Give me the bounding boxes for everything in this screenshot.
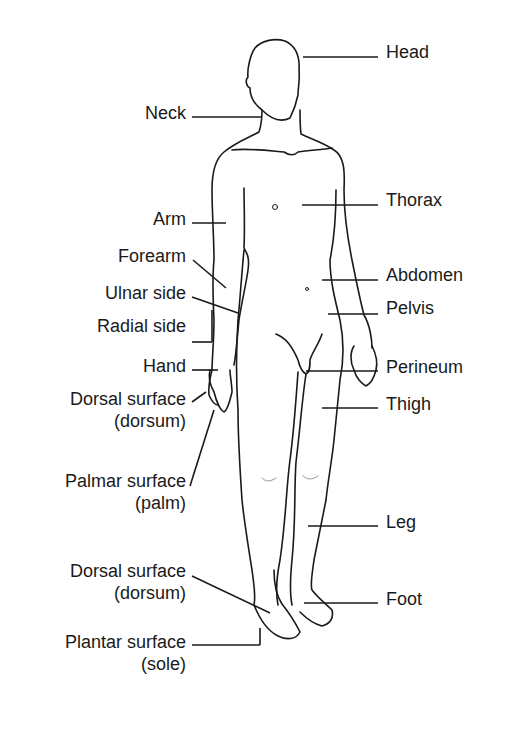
label-ulnar-side: Ulnar side [105, 282, 186, 304]
leader-forearm [193, 260, 226, 288]
label-subtext: (sole) [65, 653, 186, 675]
label-text: Perineum [386, 357, 463, 377]
leader-dorsal-hand [192, 392, 206, 402]
label-text: Hand [143, 356, 186, 376]
label-text: Dorsal surface [70, 389, 186, 409]
label-text: Forearm [118, 246, 186, 266]
label-text: Arm [153, 209, 186, 229]
label-text: Head [386, 42, 429, 62]
label-dorsal-surface-foot: Dorsal surface(dorsum) [70, 560, 186, 604]
label-arm: Arm [153, 208, 186, 230]
label-plantar-surface: Plantar surface(sole) [65, 631, 186, 675]
label-text: Plantar surface [65, 632, 186, 652]
label-palmar-surface: Palmar surface(palm) [65, 470, 186, 514]
label-subtext: (dorsum) [70, 582, 186, 604]
label-text: Radial side [97, 316, 186, 336]
label-pelvis: Pelvis [386, 297, 434, 319]
label-text: Ulnar side [105, 283, 186, 303]
label-thigh: Thigh [386, 393, 431, 415]
body-outline [209, 40, 377, 639]
label-text: Neck [145, 103, 186, 123]
label-neck: Neck [145, 102, 186, 124]
label-text: Palmar surface [65, 471, 186, 491]
label-hand: Hand [143, 355, 186, 377]
label-subtext: (dorsum) [70, 410, 186, 432]
label-radial-side: Radial side [97, 315, 186, 337]
label-text: Dorsal surface [70, 561, 186, 581]
label-text: Thigh [386, 394, 431, 414]
leader-dorsal-foot [192, 576, 270, 613]
label-perineum: Perineum [386, 356, 463, 378]
label-leg: Leg [386, 511, 416, 533]
label-forearm: Forearm [118, 245, 186, 267]
label-text: Thorax [386, 190, 442, 210]
leader-ulnar-side [192, 297, 238, 313]
label-foot: Foot [386, 588, 422, 610]
label-head: Head [386, 41, 429, 63]
label-text: Pelvis [386, 298, 434, 318]
leader-palmar [190, 410, 214, 486]
label-thorax: Thorax [386, 189, 442, 211]
label-text: Abdomen [386, 265, 463, 285]
label-text: Leg [386, 512, 416, 532]
label-text: Foot [386, 589, 422, 609]
label-abdomen: Abdomen [386, 264, 463, 286]
label-dorsal-surface-hand: Dorsal surface(dorsum) [70, 388, 186, 432]
leader-lines [190, 57, 378, 645]
label-subtext: (palm) [65, 492, 186, 514]
